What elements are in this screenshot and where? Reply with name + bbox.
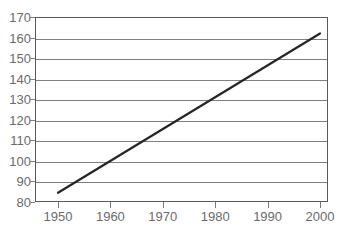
x-axis-tick xyxy=(268,202,269,208)
y-axis-tick-label: 90 xyxy=(0,175,31,188)
x-axis-tick-label: 1950 xyxy=(28,210,88,223)
y-axis-tick-label: 160 xyxy=(0,32,31,45)
plot-area xyxy=(35,17,328,202)
x-axis-tick xyxy=(320,202,321,208)
x-axis-tick-label: 1990 xyxy=(238,210,298,223)
gridline xyxy=(36,141,327,142)
y-axis-tick xyxy=(30,202,35,203)
y-axis-tick-label: 110 xyxy=(0,134,31,147)
y-axis-tick xyxy=(30,58,35,59)
y-axis-tick-label: 170 xyxy=(0,11,31,24)
x-axis-tick-label: 1970 xyxy=(133,210,193,223)
x-axis-tick xyxy=(58,202,59,208)
gridline xyxy=(36,39,327,40)
x-axis-tick-label: 2000 xyxy=(290,210,346,223)
x-axis-tick-label: 1980 xyxy=(185,210,245,223)
gridline xyxy=(36,121,327,122)
y-axis-tick xyxy=(30,181,35,182)
gridline xyxy=(36,162,327,163)
gridline xyxy=(36,59,327,60)
y-axis-tick-label: 120 xyxy=(0,114,31,127)
y-axis-tick-label: 100 xyxy=(0,155,31,168)
x-axis-tick xyxy=(215,202,216,208)
gridline xyxy=(36,182,327,183)
x-axis-tick-label: 1960 xyxy=(80,210,140,223)
gridline xyxy=(36,80,327,81)
y-axis-tick xyxy=(30,17,35,18)
y-axis-tick-label: 150 xyxy=(0,52,31,65)
y-axis-tick xyxy=(30,38,35,39)
y-axis-tick xyxy=(30,161,35,162)
y-axis-tick-label: 80 xyxy=(0,196,31,209)
x-axis-tick xyxy=(163,202,164,208)
y-axis-tick xyxy=(30,120,35,121)
line-chart: 170 160 150 140 130 120 110 100 90 80 19… xyxy=(0,0,346,236)
y-axis-tick xyxy=(30,99,35,100)
y-axis-tick xyxy=(30,140,35,141)
x-axis-tick xyxy=(110,202,111,208)
y-axis-tick-label: 140 xyxy=(0,73,31,86)
gridline xyxy=(36,100,327,101)
y-axis-tick xyxy=(30,79,35,80)
y-axis-tick-label: 130 xyxy=(0,93,31,106)
